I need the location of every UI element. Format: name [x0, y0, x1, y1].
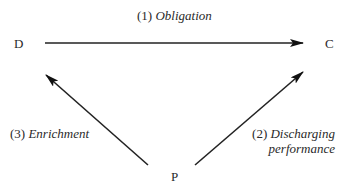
diagram-arrows: [0, 0, 347, 193]
edge-text-line2: performance: [251, 142, 335, 155]
edge-label-discharging: (2) Discharging performance: [251, 127, 335, 155]
edge-number: (3): [10, 126, 25, 141]
edge-label-enrichment: (3) Enrichment: [10, 127, 89, 140]
edge-number: (1): [137, 8, 152, 23]
edge-text-line1: Discharging: [270, 126, 335, 141]
node-p: P: [171, 170, 178, 183]
node-c: C: [325, 37, 334, 50]
node-d: D: [14, 37, 23, 50]
edge-text: Obligation: [155, 8, 211, 23]
edge-label-obligation: (1) Obligation: [137, 9, 212, 22]
edge-number: (2): [252, 126, 267, 141]
edge-text: Enrichment: [28, 126, 89, 141]
arrow-p-to-d: [46, 75, 148, 165]
